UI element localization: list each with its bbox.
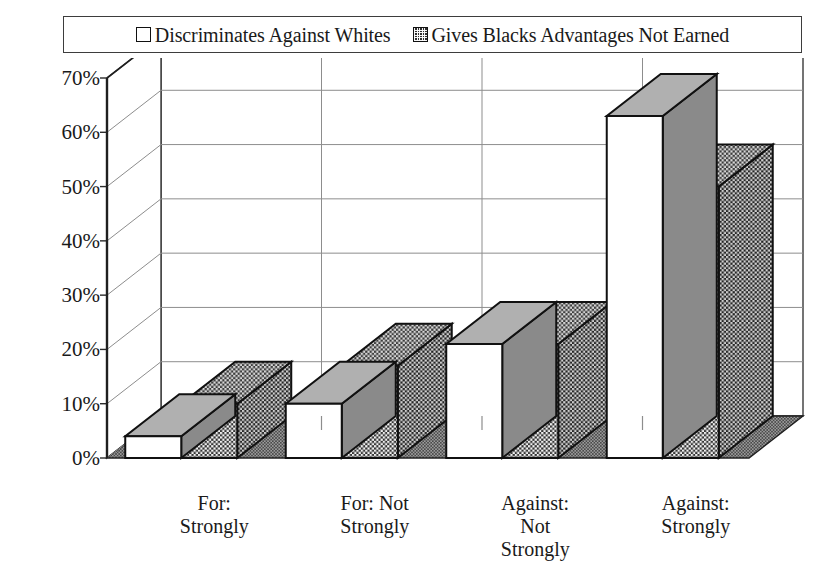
legend-item-discriminates-against-whites: Discriminates Against Whites (136, 25, 391, 45)
legend-label: Discriminates Against Whites (155, 25, 391, 45)
legend-item-gives-blacks-advantages-not-earned: Gives Blacks Advantages Not Earned (413, 25, 730, 45)
white-square-icon (136, 27, 151, 42)
clipped-title-remnant (0, 0, 840, 9)
x-axis-category-label: Against: Strongly (606, 492, 786, 538)
x-axis-category-labels: For: StronglyFor: Not StronglyAgainst: N… (0, 58, 840, 582)
x-axis-category-label: For: Strongly (124, 492, 304, 538)
legend-label: Gives Blacks Advantages Not Earned (432, 25, 730, 45)
x-axis-category-label: For: Not Strongly (285, 492, 465, 538)
x-axis-category-label: Against: Not Strongly (445, 492, 625, 562)
dark-checkered-square-icon (413, 27, 428, 42)
chart-legend: Discriminates Against Whites Gives Black… (63, 16, 802, 53)
bar-chart: 0%10%20%30%40%50%60%70% For: StronglyFor… (0, 58, 840, 582)
